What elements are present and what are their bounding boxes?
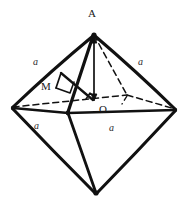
vertex-label-O: O [99,104,107,115]
vertex-label-M: M [41,81,51,92]
edge-label-upper-right: a [138,57,143,67]
vertex-dot-right [173,108,177,112]
edge-label-lower-left: a [34,121,39,131]
vertex-label-A: A [88,8,96,19]
vertex-dot-left [11,106,15,110]
segment-m-arm [56,73,61,88]
edge-front-to-right [68,110,175,113]
edge-left-to-front [13,108,68,113]
hidden-edge-apex-to-back [94,35,127,95]
edge-label-upper-left: a [33,57,38,67]
edge-apex-to-right [95,36,175,109]
altitude-group [91,36,97,101]
vertex-dot-front [66,111,71,116]
edge-label-lower-right: a [109,123,114,133]
octahedron-drawing [0,0,186,211]
right-angle-marker-at-m [56,82,74,93]
hidden-edge-back-to-bottom [122,96,127,104]
octahedron-figure: A O M a a a a [0,0,186,211]
vertex-dot-bottom [93,190,98,195]
vertex-dot-apex [91,32,96,37]
